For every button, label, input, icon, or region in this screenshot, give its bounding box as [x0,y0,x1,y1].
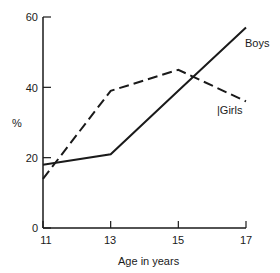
y-tick-20: 20 [14,153,38,164]
x-axis-label: Age in years [118,256,179,267]
y-tick-40: 40 [14,83,38,94]
series-label-boys: Boys [245,38,269,49]
x-tick-15: 15 [166,235,190,246]
series-label-girls: |Girls [217,105,242,116]
x-tick-17: 17 [234,235,258,246]
y-axis-label: % [12,118,22,129]
x-tick-11: 11 [34,235,58,246]
line-chart: 60 40 20 0 11 13 15 17 % Age in years Bo… [0,0,280,273]
series-line-girls [43,70,246,179]
series-line-boys [43,28,246,165]
series-lines [43,28,246,179]
y-tick-60: 60 [14,12,38,23]
y-tick-0: 0 [14,223,38,234]
plot-area [0,0,280,273]
x-tick-13: 13 [98,235,122,246]
